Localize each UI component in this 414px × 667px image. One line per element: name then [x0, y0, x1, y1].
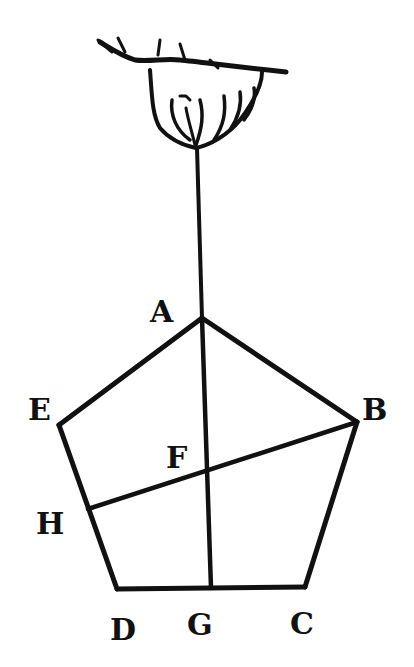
side-ab — [202, 318, 357, 422]
line-ag — [202, 318, 211, 588]
pentagon-plumb-diagram: A B C D E F G H — [0, 0, 414, 667]
side-ea — [59, 318, 202, 425]
label-a: A — [149, 294, 174, 329]
label-f: F — [166, 440, 187, 475]
label-d: D — [110, 612, 136, 647]
label-b: B — [362, 392, 387, 427]
line-bh — [88, 422, 357, 509]
side-bc — [305, 422, 357, 587]
label-g: G — [187, 607, 213, 642]
hand-icon — [98, 38, 286, 148]
label-c: C — [290, 606, 314, 641]
label-h: H — [36, 506, 64, 541]
plumb-string — [197, 148, 202, 318]
label-e: E — [28, 392, 51, 427]
